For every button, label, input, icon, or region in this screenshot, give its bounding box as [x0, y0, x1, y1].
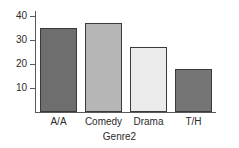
x-axis-tick-label: Comedy [81, 116, 126, 127]
y-axis-tick-label: 20 [16, 59, 27, 69]
bar [40, 28, 77, 112]
x-axis-tick-label: A/A [36, 116, 81, 127]
plot-area [36, 11, 216, 112]
y-axis-tick-label: 40 [16, 11, 27, 21]
bar-chart: 10203040 A/AComedyDramaT/H Genre2 [0, 0, 239, 148]
y-axis-tick-label: 30 [16, 35, 27, 45]
x-axis-title: Genre2 [0, 131, 239, 142]
bar [175, 69, 212, 112]
y-axis-tick-label: 10 [16, 83, 27, 93]
x-axis-tick-label: Drama [126, 116, 171, 127]
x-axis-tick-label: T/H [171, 116, 216, 127]
bar [85, 23, 122, 112]
x-axis-line [35, 112, 216, 113]
bar [130, 47, 167, 112]
